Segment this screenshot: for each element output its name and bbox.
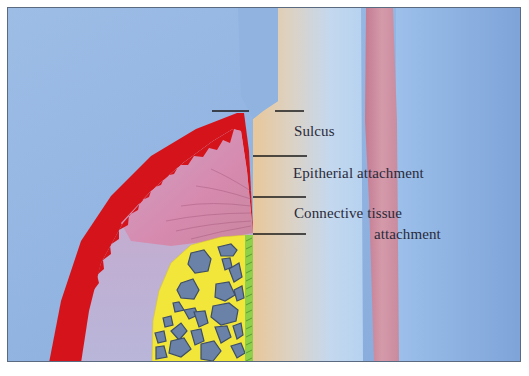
label-sulcus: Sulcus bbox=[294, 123, 335, 140]
label-connective-attachment: attachment bbox=[374, 226, 441, 243]
label-epithelial-attachment: Epitherial attachment bbox=[293, 165, 424, 182]
label-connective-tissue: Connective tissue bbox=[294, 205, 402, 222]
diagram-frame bbox=[7, 7, 521, 362]
right-background bbox=[396, 8, 521, 362]
tooth-gingiva-illustration bbox=[8, 8, 521, 362]
